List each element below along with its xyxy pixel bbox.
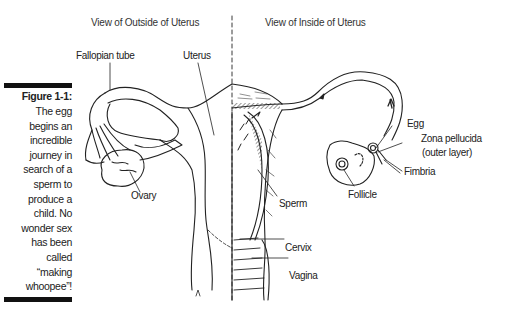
follicle-shape	[336, 158, 348, 170]
label-follicle: Follicle	[348, 189, 377, 200]
label-sperm: Sperm	[279, 198, 307, 209]
heading-outside-view: View of Outside of Uterus	[91, 17, 199, 28]
heading-inside-view: View of Inside of Uterus	[265, 17, 366, 28]
label-uterus: Uterus	[183, 50, 211, 61]
label-zona-pellucida-sub: (outer layer)	[422, 147, 472, 158]
inside-uterus-drawing	[232, 72, 402, 300]
label-egg: Egg	[407, 118, 424, 129]
label-ovary: Ovary	[131, 190, 156, 201]
label-fallopian-tube: Fallopian tube	[76, 50, 135, 61]
egg-shape	[368, 143, 378, 153]
uterus-diagram	[0, 0, 507, 316]
label-vagina: Vagina	[289, 270, 318, 281]
label-fimbria: Fimbria	[404, 166, 435, 177]
label-cervix: Cervix	[285, 242, 312, 253]
label-zona-pellucida: Zona pellucida	[421, 133, 482, 144]
